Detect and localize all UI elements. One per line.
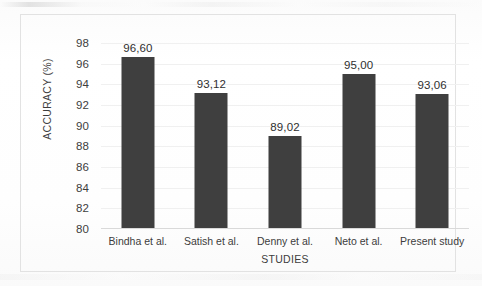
x-axis-tick-label: Denny et al. <box>248 235 322 247</box>
x-axis-line <box>101 228 469 229</box>
bar-value-label: 93,12 <box>197 78 226 90</box>
scan-artifact-top <box>0 2 482 7</box>
x-axis-tick-label: Neto et al. <box>322 235 396 247</box>
y-axis-tick-label: 84 <box>76 182 89 194</box>
y-axis-tick-label: 92 <box>76 99 89 111</box>
y-axis-tick-labels: 98969492908886848280 <box>41 43 95 229</box>
x-axis-tick-label: Satish et al. <box>175 235 249 247</box>
y-axis-tick-label: 90 <box>76 120 89 132</box>
x-axis-tick-label: Bindha et al. <box>101 235 175 247</box>
bar[interactable] <box>268 136 301 229</box>
plot-area: 96,6093,1289,0295,0093,06 <box>101 43 469 229</box>
bar-group: 93,06 <box>395 43 469 229</box>
bar-value-label: 93,06 <box>418 79 447 91</box>
y-axis-tick-label: 96 <box>76 58 89 70</box>
y-axis-tick-label: 86 <box>76 161 89 173</box>
scan-artifact-bottom <box>0 274 482 280</box>
y-axis-tick-label: 80 <box>76 223 89 235</box>
bar-group: 89,02 <box>248 43 322 229</box>
bar[interactable] <box>416 94 449 229</box>
y-axis-tick-label: 94 <box>76 78 89 90</box>
x-axis-title: STUDIES <box>101 253 469 265</box>
bar-group: 95,00 <box>322 43 396 229</box>
bar-value-label: 89,02 <box>270 121 299 133</box>
bar[interactable] <box>195 93 228 229</box>
chart-frame: ACCURACY (%) 98969492908886848280 96,609… <box>20 14 456 272</box>
x-axis-tick-label: Present study <box>395 235 469 247</box>
y-axis-tick-label: 98 <box>76 37 89 49</box>
bar-value-label: 96,60 <box>123 42 152 54</box>
bar-value-label: 95,00 <box>344 59 373 71</box>
x-axis-tick-labels: Bindha et al.Satish et al.Denny et al.Ne… <box>101 235 469 251</box>
bar-group: 96,60 <box>101 43 175 229</box>
y-axis-tick-label: 88 <box>76 140 89 152</box>
y-axis-tick-label: 82 <box>76 202 89 214</box>
bar-group: 93,12 <box>175 43 249 229</box>
bar[interactable] <box>121 57 154 229</box>
bar[interactable] <box>342 74 375 229</box>
